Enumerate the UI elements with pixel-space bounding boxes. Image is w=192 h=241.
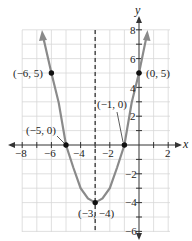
x-axis-arrow-right-icon xyxy=(175,142,182,148)
x-tick-label: −8 xyxy=(15,147,27,159)
y-axis-label: y xyxy=(134,3,141,17)
x-tick-label: −6 xyxy=(44,147,56,159)
x-axis-arrow-left-icon xyxy=(8,142,15,148)
label-point-0-5: (0, 5) xyxy=(146,67,170,80)
x-axis-label: x xyxy=(182,137,189,151)
x-tick-label: 2 xyxy=(165,147,171,159)
curve-arrow-left-icon xyxy=(39,30,47,41)
curve-arrow-right-icon xyxy=(143,30,151,41)
parabola-graph: (−6, 5) (−5, 0) (−3, −4) (−1, 0) (0, 5) … xyxy=(0,0,192,241)
x-tick-label: −4 xyxy=(73,147,85,159)
label-point-minus1-0: (−1, 0) xyxy=(97,98,127,111)
y-tick-label: −6 xyxy=(125,225,137,237)
y-tick-label: 2 xyxy=(130,110,136,122)
y-axis-arrow-down-icon xyxy=(136,233,142,240)
leader-line-minus5 xyxy=(57,136,64,143)
y-tick-label: 8 xyxy=(130,24,136,36)
y-tick-label: 4 xyxy=(130,82,136,94)
point-minus6-5 xyxy=(49,70,54,75)
label-point-minus6-5: (−6, 5) xyxy=(13,67,43,80)
y-axis-arrow-up-icon xyxy=(136,16,142,23)
point-minus5-0 xyxy=(63,142,68,147)
point-minus3-minus4 xyxy=(93,200,98,205)
label-point-minus3-minus4: (−3, −4) xyxy=(78,207,115,220)
y-tick-label: −4 xyxy=(125,196,137,208)
point-0-5 xyxy=(136,70,141,75)
label-point-minus5-0: (−5, 0) xyxy=(26,124,56,137)
y-tick-label: 6 xyxy=(130,53,136,65)
y-tick-label: −2 xyxy=(125,168,137,180)
x-tick-label: −2 xyxy=(102,147,114,159)
point-minus1-0 xyxy=(122,142,127,147)
